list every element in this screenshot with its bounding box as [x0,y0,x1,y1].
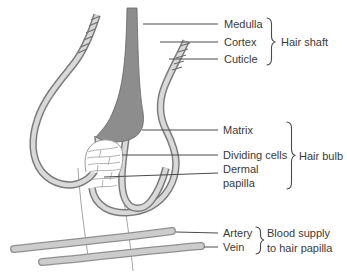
artery-leader [176,232,218,233]
hair-follicle-diagram: Medulla Cortex Cuticle Hair shaft Matrix… [0,0,347,274]
artery-vessel [14,231,172,249]
label-cortex: Cortex [224,36,257,48]
label-blood-supply-line2: to hair papilla [267,242,333,254]
label-dermal-papilla-line2: papilla [223,177,256,189]
label-blood-supply-line1: Blood supply [267,227,330,239]
diagram-canvas: Medulla Cortex Cuticle Hair shaft Matrix… [0,0,347,274]
label-medulla: Medulla [224,18,263,30]
vein-vessel [42,246,201,262]
label-cuticle: Cuticle [224,53,258,65]
label-vein: Vein [223,241,244,253]
hair-shaft-shape [96,8,144,142]
label-dividing-cells: Dividing cells [223,149,288,161]
blood-supply-brace [256,227,264,254]
hair-bulb-brace [287,122,296,189]
label-dermal-papilla-line1: Dermal [223,163,258,175]
label-hair-shaft: Hair shaft [281,36,328,48]
hair-shaft-brace [267,18,276,65]
label-matrix: Matrix [223,124,253,136]
label-artery: Artery [223,227,253,239]
label-hair-bulb: Hair bulb [299,150,343,162]
